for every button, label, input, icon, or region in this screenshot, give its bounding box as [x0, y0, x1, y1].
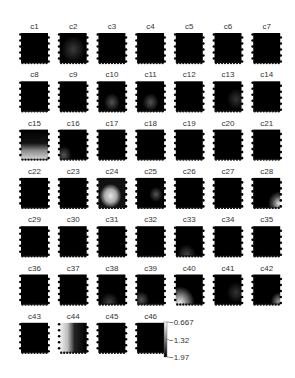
- hex-edge-cell: [213, 45, 216, 48]
- hex-edge-cell: [197, 207, 199, 209]
- panel-c20: c20: [213, 119, 244, 161]
- hex-edge-cell: [278, 62, 280, 64]
- hex-edge-cell: [275, 303, 277, 305]
- hex-edge-cell: [251, 136, 254, 139]
- hex-edge-cell: [188, 110, 190, 112]
- hex-edge-cell: [185, 110, 187, 112]
- hex-edge-cell: [278, 303, 280, 305]
- hex-edge-cell: [36, 62, 38, 64]
- hex-edge-cell: [202, 235, 205, 238]
- hex-edge-cell: [125, 181, 128, 184]
- hex-edge-cell: [58, 57, 61, 60]
- hex-edge-cell: [202, 103, 205, 106]
- hex-edge-cell: [36, 352, 38, 354]
- hex-edge-cell: [213, 154, 216, 157]
- hex-edge-cell: [241, 235, 244, 238]
- hex-edge-cell: [81, 62, 83, 64]
- hex-edge-cell: [102, 352, 104, 354]
- hex-edge-cell: [42, 255, 44, 257]
- hex-edge-cell: [58, 287, 61, 290]
- hex-edge-cell: [174, 232, 177, 235]
- hex-edge-cell: [202, 205, 205, 208]
- hex-edge-cell: [47, 139, 50, 142]
- hex-edge-cell: [117, 62, 119, 64]
- panel-tile: [21, 33, 48, 63]
- hex-edge-cell: [227, 303, 229, 305]
- hex-edge-cell: [125, 145, 128, 148]
- hex-edge-cell: [241, 241, 244, 244]
- hex-edge-cell: [236, 207, 238, 209]
- hex-edge-cell: [174, 275, 177, 278]
- hex-edge-cell: [30, 207, 32, 209]
- hex-edge-cell: [86, 241, 89, 244]
- hex-edge-cell: [191, 303, 193, 305]
- panel-c8: c8: [19, 70, 50, 112]
- hex-edge-cell: [272, 62, 274, 64]
- hex-edge-cell: [78, 62, 80, 64]
- hex-edge-cell: [213, 82, 216, 85]
- hex-edge-cell: [125, 91, 128, 94]
- hex-edge-cell: [97, 100, 100, 103]
- panel-label: c43: [28, 312, 41, 321]
- hex-edge-cell: [72, 303, 74, 305]
- hex-edge-cell: [174, 148, 177, 151]
- hex-edge-cell: [280, 42, 283, 45]
- hex-edge-cell: [188, 255, 190, 257]
- hex-edge-cell: [213, 94, 216, 97]
- hex-edge-cell: [202, 229, 205, 232]
- hex-edge-cell: [19, 57, 22, 60]
- hex-edge-cell: [179, 158, 181, 160]
- panel-c16: c16: [58, 119, 89, 161]
- hex-edge-cell: [84, 158, 86, 160]
- hex-edge-cell: [30, 352, 32, 354]
- hex-edge-cell: [140, 352, 142, 354]
- panel-tile: [137, 275, 164, 305]
- panel-label: c30: [67, 215, 80, 224]
- hex-edge-cell: [174, 136, 177, 139]
- hex-edge-cell: [233, 110, 235, 112]
- hex-edge-cell: [123, 303, 125, 305]
- hex-edge-cell: [27, 110, 29, 112]
- hex-edge-cell: [163, 145, 166, 148]
- hex-edge-cell: [30, 255, 32, 257]
- panel-label: c23: [67, 167, 80, 176]
- hex-edge-cell: [102, 255, 104, 257]
- hex-edge-cell: [30, 158, 32, 160]
- hex-edge-cell: [152, 352, 154, 354]
- hex-edge-cell: [251, 238, 254, 241]
- hex-edge-cell: [58, 323, 61, 326]
- hex-edge-cell: [66, 352, 68, 354]
- hex-edge-cell: [105, 207, 107, 209]
- hex-edge-cell: [86, 302, 89, 305]
- hex-edge-cell: [197, 158, 199, 160]
- hex-edge-cell: [120, 352, 122, 354]
- hex-edge-cell: [280, 247, 283, 250]
- hex-edge-cell: [135, 196, 138, 199]
- panel-tile: [60, 130, 87, 160]
- hex-edge-cell: [200, 158, 202, 160]
- hex-edge-cell: [278, 255, 280, 257]
- hex-edge-cell: [86, 193, 89, 196]
- hex-edge-cell: [158, 352, 160, 354]
- hex-edge-cell: [251, 57, 254, 60]
- hex-edge-cell: [174, 287, 177, 290]
- hex-edge-cell: [140, 110, 142, 112]
- panel-tile: [253, 178, 280, 208]
- hex-edge-cell: [125, 332, 128, 335]
- hex-edge-cell: [194, 207, 196, 209]
- hex-edge-cell: [45, 110, 47, 112]
- hex-edge-cell: [176, 110, 178, 112]
- hex-edge-cell: [97, 226, 100, 229]
- hex-edge-cell: [143, 207, 145, 209]
- hex-edge-cell: [241, 133, 244, 136]
- panel-c17: c17: [97, 119, 128, 161]
- hex-edge-cell: [213, 190, 216, 193]
- hex-edge-cell: [213, 100, 216, 103]
- hex-edge-cell: [86, 36, 89, 39]
- hex-edge-cell: [188, 303, 190, 305]
- hex-edge-cell: [97, 293, 100, 296]
- hex-edge-cell: [24, 110, 26, 112]
- hex-edge-cell: [202, 36, 205, 39]
- hex-edge-cell: [125, 199, 128, 202]
- panel-tile: [253, 130, 280, 160]
